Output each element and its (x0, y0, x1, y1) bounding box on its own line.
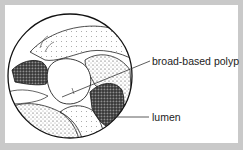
label-lumen: lumen (152, 111, 181, 123)
endoscopic-view-illustration (0, 0, 243, 150)
tissue-drawing (8, 26, 134, 145)
label-broad-based-polyp: broad-based polyp (152, 55, 239, 67)
